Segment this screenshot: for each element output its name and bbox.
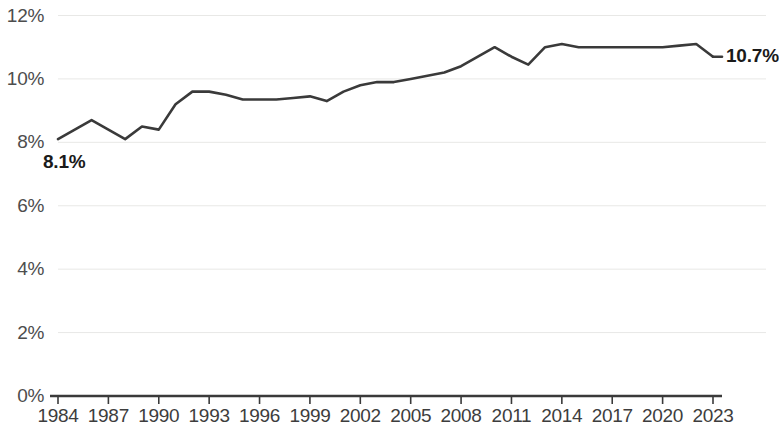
- y-axis-tick-label: 6%: [0, 195, 44, 217]
- y-axis-tick-label: 12%: [0, 5, 44, 27]
- data-series-line: [58, 44, 713, 139]
- y-axis-tick-label: 10%: [0, 68, 44, 90]
- y-axis-tick-label: 2%: [0, 322, 44, 344]
- end-value-annotation: 10.7%: [726, 45, 779, 67]
- y-axis-tick-label: 4%: [0, 258, 44, 280]
- tick-marks: [58, 396, 713, 404]
- y-axis-tick-label: 8%: [0, 131, 44, 153]
- y-axis-tick-label: 0%: [0, 385, 44, 407]
- start-value-annotation: 8.1%: [43, 151, 86, 173]
- gridlines: [58, 16, 766, 333]
- x-axis-tick-label: 2023: [683, 405, 743, 427]
